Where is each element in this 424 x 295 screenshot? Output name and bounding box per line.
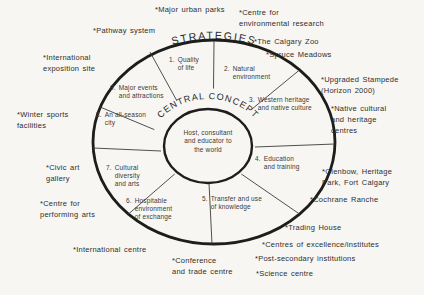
strategy-env-research-centre: *Centre for environmental research xyxy=(239,8,324,30)
segment-label: An all-season city xyxy=(105,111,146,127)
strategy-upgraded-stampede: *Upgraded Stampede (Horizon 2000) xyxy=(321,75,399,97)
strategy-spruce-meadows: *Spruce Meadows xyxy=(266,50,332,61)
strategy-international-exposition: *International exposition site xyxy=(43,53,95,75)
segment-label: Western heritage and native culture xyxy=(258,96,312,112)
strategy-performing-arts-centre: *Centre for performing arts xyxy=(40,199,95,221)
segment-2-natural-environment: 2. Natural environment xyxy=(224,65,270,81)
segment-label: Education and training xyxy=(264,155,300,171)
segment-number: 8. xyxy=(96,111,102,127)
segment-9-major-events: 9. Major events and attractions xyxy=(110,84,164,100)
segment-8-all-season-city: 8. An all-season city xyxy=(96,111,146,127)
segment-5-transfer-knowledge: 5. Transfer and use of knowledge xyxy=(202,195,262,211)
strategy-civic-art-gallery: *Civic art gallery xyxy=(46,163,80,185)
segment-label: Cultural diversity and arts xyxy=(115,164,140,188)
strategy-calgary-zoo: *The Calgary Zoo xyxy=(254,37,319,48)
segment-label: Quality of life xyxy=(178,56,199,72)
segment-number: 2. xyxy=(224,65,230,81)
segment-number: 9. xyxy=(110,84,116,100)
segment-4-education-training: 4. Education and training xyxy=(255,155,300,171)
segment-7-cultural-diversity: 7. Cultural diversity and arts xyxy=(106,164,140,188)
segment-label: Hospitable environment of exchange xyxy=(135,197,172,221)
segment-number: 3. xyxy=(249,96,255,112)
segment-number: 5. xyxy=(202,195,208,211)
strategy-trading-house: *Trading House xyxy=(285,223,341,234)
strategy-cochrane-ranche: *Cochrane Ranche xyxy=(310,195,378,206)
segment-number: 6. xyxy=(126,197,132,221)
segment-label: Transfer and use of knowledge xyxy=(211,195,262,211)
strategy-post-secondary: *Post-secondary institutions xyxy=(255,254,356,265)
strategy-science-centre: *Science centre xyxy=(256,269,313,280)
strategy-native-cultural-centres: *Native cultural and heritage centres xyxy=(331,104,386,137)
strategy-glenbow-heritage-park: *Glenbow, Heritage Park, Fort Calgary xyxy=(322,167,392,189)
hub-statement: Host, consultant and educator to the wor… xyxy=(165,129,251,154)
strategy-conference-trade-centre: *Conference and trade centre xyxy=(172,256,233,278)
strategy-pathway-system: *Pathway system xyxy=(93,26,155,37)
strategy-major-urban-parks: *Major urban parks xyxy=(155,5,225,16)
segment-number: 4. xyxy=(255,155,261,171)
segment-1-quality-of-life: 1. Quality of life xyxy=(169,56,199,72)
segment-label: Major events and attractions xyxy=(119,84,164,100)
concept-wheel-page: STRATEGIES CENTRAL CONCEPT Host, consult… xyxy=(0,0,424,295)
strategy-winter-sports-facilities: *Winter sports facilities xyxy=(17,110,69,132)
segment-label: Natural environment xyxy=(233,65,270,81)
segment-number: 7. xyxy=(106,164,112,188)
strategy-international-centre: *International centre xyxy=(73,245,146,256)
strategy-centres-of-excellence: *Centres of excellence/institutes xyxy=(262,240,379,251)
segment-number: 1. xyxy=(169,56,175,72)
segment-6-hospitable-environment: 6. Hospitable environment of exchange xyxy=(126,197,172,221)
segment-3-western-heritage: 3. Western heritage and native culture xyxy=(249,96,312,112)
